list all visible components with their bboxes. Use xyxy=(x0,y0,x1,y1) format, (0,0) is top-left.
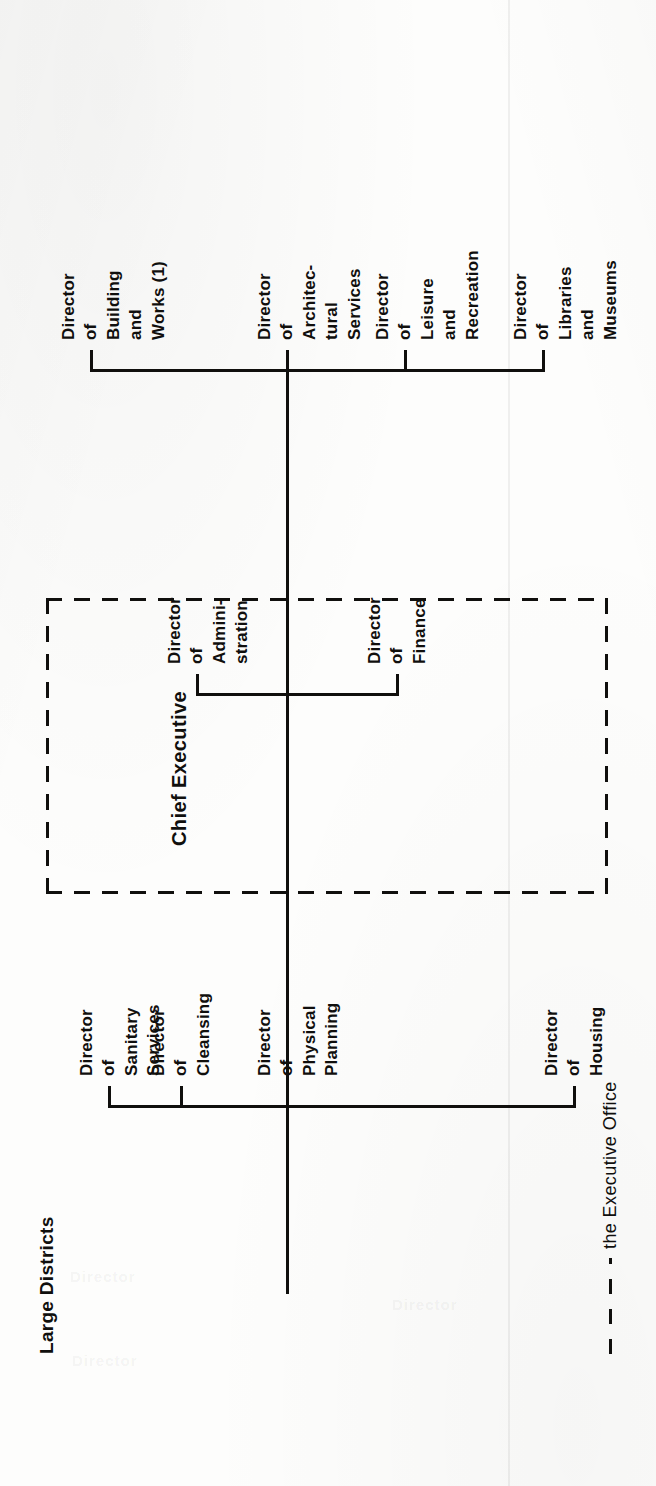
bracket-bar-executive-office xyxy=(196,693,398,696)
bracket-stub-building-works xyxy=(90,350,93,372)
main-spine-line xyxy=(286,622,289,1294)
chart-title: Large Districts xyxy=(36,1216,58,1354)
node-director-architectural-services: Director of Architec- tural Services xyxy=(254,265,366,341)
organisation-chart-canvas: Chief Executive Director of Libraries an… xyxy=(0,0,656,1486)
bracket-stub-sanitary-services xyxy=(108,1086,111,1108)
legend-dashed-rule-icon xyxy=(609,1258,612,1354)
legend-label: the Executive Office xyxy=(600,1081,621,1249)
bracket-bar-amenities-works xyxy=(90,369,545,372)
bracket-stub-housing xyxy=(573,1086,576,1108)
node-director-sanitary-services: Director of Sanitary Services xyxy=(76,1004,166,1076)
node-director-leisure-recreation: Director of Leisure and Recreation xyxy=(372,250,484,340)
chief-executive-label: Chief Executive xyxy=(168,691,191,846)
spine-connector-amenities-works xyxy=(286,369,289,622)
scanned-page: Director Director Director Chief Executi… xyxy=(0,0,656,1486)
bracket-stub-physical-planning xyxy=(286,1086,289,1108)
bracket-stub-administration xyxy=(196,674,199,696)
bracket-stub-cleansing xyxy=(180,1086,183,1108)
bracket-stub-leisure-recreation xyxy=(404,350,407,372)
node-director-finance: Director of Finance xyxy=(364,597,431,664)
legend: the Executive Office xyxy=(600,1081,621,1354)
bracket-stub-architectural-services xyxy=(286,350,289,372)
bracket-stub-libraries-museums xyxy=(542,350,545,372)
executive-office-dashed-boundary xyxy=(46,598,608,894)
node-director-housing: Director of Housing xyxy=(541,1007,608,1076)
bracket-bar-environment xyxy=(108,1105,576,1108)
node-director-libraries-museums: Director of Libraries and Museums xyxy=(510,260,622,340)
node-director-administration: Director of Admini- stration xyxy=(164,597,254,664)
bracket-stub-finance xyxy=(396,674,399,696)
node-director-building-works: Director of Building and Works (1) xyxy=(58,261,170,340)
node-director-physical-planning: Director of Physical Planning xyxy=(254,1003,344,1076)
